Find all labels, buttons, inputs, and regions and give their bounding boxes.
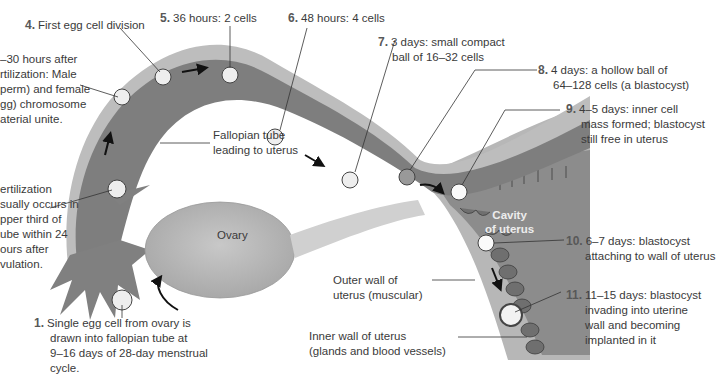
step-10-label: 10.6–7 days: blastocyst attaching to wal… bbox=[566, 234, 715, 264]
cell-step-3 bbox=[114, 89, 130, 105]
step-9-label: 9.4–5 days: inner cell mass formed; blas… bbox=[566, 102, 705, 147]
cell-step-4 bbox=[155, 69, 171, 85]
ovarian-ligament bbox=[290, 200, 425, 258]
cell-step-11 bbox=[500, 304, 522, 326]
cell-step-8 bbox=[399, 169, 415, 185]
cavity-of-uterus-label: Cavity of uterus bbox=[485, 208, 534, 236]
ovary-label: Ovary bbox=[217, 228, 248, 243]
outer-wall-label: Outer wall of uterus (muscular) bbox=[333, 273, 422, 303]
step-3-chromosomes-label: –30 hours after rtilization: Male perm) … bbox=[0, 52, 90, 127]
step-11-label: 11.11–15 days: blastocyst invading into … bbox=[566, 288, 701, 348]
fallopian-tube-label: Fallopian tube leading to uterus bbox=[213, 128, 298, 158]
step-6-label: 6.48 hours: 4 cells bbox=[288, 11, 385, 26]
cell-step-9 bbox=[451, 184, 467, 200]
cell-step-7 bbox=[342, 172, 358, 188]
cell-step-10 bbox=[478, 235, 494, 251]
step-5-label: 5.36 hours: 2 cells bbox=[160, 11, 257, 26]
step-4-label: 4.First egg cell division bbox=[25, 18, 145, 33]
cell-step-2 bbox=[108, 180, 126, 198]
step-7-label: 7.3 days: small compact ball of 16–32 ce… bbox=[378, 35, 505, 65]
step-1-label: 1.Single egg cell from ovary is drawn in… bbox=[34, 316, 208, 376]
arrow-down-tube bbox=[305, 155, 322, 165]
step-2-fertilization-label: ertilization sually occurs in pper third… bbox=[0, 182, 79, 272]
step-8-label: 8.4 days: a hollow ball of 64–128 cells … bbox=[538, 63, 689, 93]
inner-wall-label: Inner wall of uterus (glands and blood v… bbox=[309, 329, 446, 359]
cell-step-5 bbox=[222, 67, 238, 83]
ovary bbox=[145, 202, 295, 298]
